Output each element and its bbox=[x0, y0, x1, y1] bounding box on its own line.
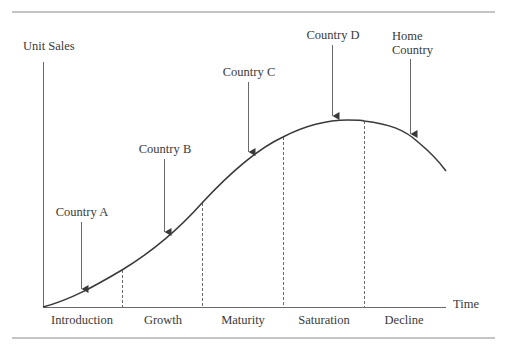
annotation-home-country-line1: Home bbox=[392, 29, 423, 43]
stage-label-introduction: Introduction bbox=[51, 313, 114, 327]
annotation-country-c: Country C bbox=[223, 65, 275, 79]
stage-label-growth: Growth bbox=[144, 313, 183, 327]
stage-label-decline: Decline bbox=[385, 313, 424, 327]
stage-label-maturity: Maturity bbox=[221, 313, 265, 327]
y-axis-label: Unit Sales bbox=[23, 39, 75, 53]
annotation-country-d: Country D bbox=[306, 28, 359, 42]
stage-label-saturation: Saturation bbox=[298, 313, 350, 327]
annotation-country-b: Country B bbox=[139, 142, 191, 156]
x-axis-label: Time bbox=[453, 297, 479, 311]
annotation-home-country-line2: Country bbox=[392, 43, 434, 57]
product-life-cycle-diagram: Unit Sales Time Introduction Growth Matu… bbox=[0, 0, 506, 350]
annotation-country-a: Country A bbox=[56, 205, 108, 219]
